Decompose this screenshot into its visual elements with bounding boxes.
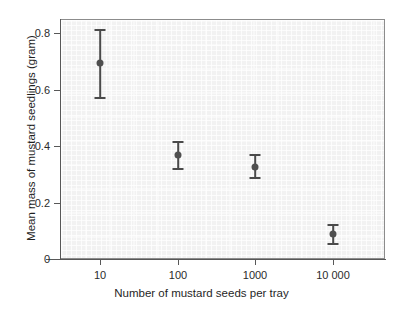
y-axis-line: [60, 19, 61, 260]
y-tick-1: [54, 203, 60, 204]
y-tick-2: [54, 146, 60, 147]
x-tick-2: [255, 259, 256, 265]
y-tick-4: [54, 33, 60, 34]
y-tick-3: [54, 90, 60, 91]
errorbar-cap-lower-10: [95, 97, 106, 99]
chart-figure: 0 0.2 0.4 0.6 0.8 10 100 1000 10 000: [0, 0, 403, 311]
errorbar-cap-upper-10: [95, 29, 106, 31]
errorbar-cap-upper-1000: [250, 154, 261, 156]
errorbar-cap-upper-100: [173, 141, 184, 143]
x-axis-line: [46, 259, 386, 260]
x-tick-1: [178, 259, 179, 265]
x-tick-label-1: 100: [169, 269, 187, 281]
x-axis-title: Number of mustard seeds per tray: [0, 287, 403, 299]
plot-area: [60, 19, 385, 259]
x-tick-label-2: 1000: [243, 269, 267, 281]
y-tick-label-0: 0: [44, 254, 50, 265]
x-tick-label-0: 10: [94, 269, 106, 281]
data-marker-100: [175, 152, 182, 159]
x-tick-0: [100, 259, 101, 265]
data-marker-1000: [252, 164, 259, 171]
y-axis-title: Mean mass of mustard seedlings (gram): [25, 13, 37, 263]
errorbar-cap-lower-1000: [250, 177, 261, 179]
errorbar-cap-upper-10000: [328, 224, 339, 226]
data-marker-10000: [330, 231, 337, 238]
y-tick-0: [54, 259, 60, 260]
data-marker-10: [97, 60, 104, 67]
errorbar-cap-lower-10000: [328, 243, 339, 245]
x-tick-3: [333, 259, 334, 265]
x-tick-label-3: 10 000: [316, 269, 350, 281]
errorbar-cap-lower-100: [173, 168, 184, 170]
